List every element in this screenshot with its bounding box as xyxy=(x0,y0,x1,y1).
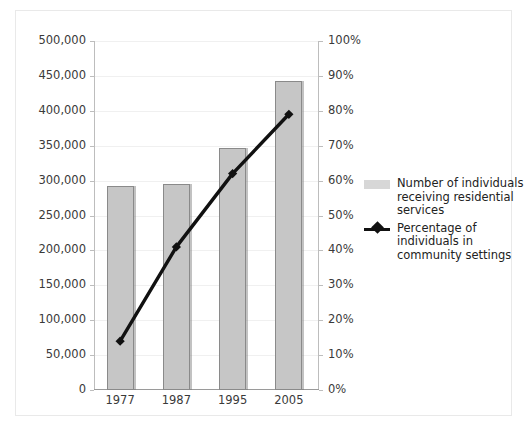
left-axis-tick-label: 200,000 xyxy=(38,245,86,257)
right-axis-tickmark xyxy=(319,76,323,77)
chart-legend: Number of individuals receiving resident… xyxy=(364,177,524,266)
left-axis-tickmark xyxy=(90,355,94,356)
right-axis-tickmark xyxy=(319,216,323,217)
left-axis-tick-label: 50,000 xyxy=(46,349,86,361)
bar xyxy=(163,184,190,390)
right-axis-tick-label: 90% xyxy=(328,70,354,82)
x-axis-tick-label: 2005 xyxy=(274,395,303,407)
right-axis-tickmark xyxy=(319,111,323,112)
chart-figure: 050,000100,000150,000200,000250,000300,0… xyxy=(0,0,528,434)
right-axis-tick-label: 60% xyxy=(328,175,354,187)
left-axis-tickmark xyxy=(90,320,94,321)
x-axis-tick-label: 1987 xyxy=(162,395,191,407)
right-axis-tickmark xyxy=(319,285,323,286)
right-axis-tickmark xyxy=(319,146,323,147)
x-axis-tick-label: 1995 xyxy=(218,395,247,407)
legend-item-line: Percentage of individuals in community s… xyxy=(364,222,524,263)
right-axis-tick-label: 80% xyxy=(328,105,354,117)
left-axis-tickmark xyxy=(90,250,94,251)
right-axis-tick-label: 50% xyxy=(328,210,354,222)
left-axis-tickmark xyxy=(90,285,94,286)
legend-line-label: Percentage of individuals in community s… xyxy=(397,222,524,263)
left-axis-tickmark xyxy=(90,181,94,182)
legend-bar-label: Number of individuals receiving resident… xyxy=(397,177,524,218)
left-axis-tick-label: 250,000 xyxy=(38,210,86,222)
gridline xyxy=(95,76,318,77)
left-axis-tick-label: 450,000 xyxy=(38,70,86,82)
diamond-marker-icon xyxy=(371,221,384,234)
right-axis-tick-label: 0% xyxy=(328,384,346,396)
plot-area: 050,000100,000150,000200,000250,000300,0… xyxy=(94,41,319,390)
line-path xyxy=(120,114,289,341)
left-axis-tick-label: 300,000 xyxy=(38,175,86,187)
bar xyxy=(275,81,302,390)
right-axis-tickmark xyxy=(319,390,323,391)
right-axis-tick-label: 40% xyxy=(328,245,354,257)
right-axis-tickmark xyxy=(319,320,323,321)
bar xyxy=(219,148,246,390)
left-axis-tickmark xyxy=(90,216,94,217)
right-axis-tickmark xyxy=(319,41,323,42)
right-axis-tick-label: 100% xyxy=(328,35,361,47)
left-axis-tick-label: 500,000 xyxy=(38,35,86,47)
left-axis-tickmark xyxy=(90,146,94,147)
legend-bar-key xyxy=(364,177,390,211)
left-axis-tickmark xyxy=(90,76,94,77)
right-axis-tick-label: 20% xyxy=(328,314,354,326)
right-axis-tick-label: 70% xyxy=(328,140,354,152)
gridline xyxy=(95,41,318,42)
legend-line-key xyxy=(364,222,390,256)
right-axis-tickmark xyxy=(319,355,323,356)
chart-frame: 050,000100,000150,000200,000250,000300,0… xyxy=(15,10,512,416)
left-axis-tick-label: 0 xyxy=(79,384,86,396)
left-axis-tickmark xyxy=(90,390,94,391)
left-axis-tick-label: 400,000 xyxy=(38,105,86,117)
left-axis-tickmark xyxy=(90,111,94,112)
left-axis-tick-label: 100,000 xyxy=(38,314,86,326)
left-axis-tick-label: 350,000 xyxy=(38,140,86,152)
right-axis-tick-label: 10% xyxy=(328,349,354,361)
left-axis-tick-label: 150,000 xyxy=(38,280,86,292)
right-axis-tickmark xyxy=(319,181,323,182)
right-axis-tick-label: 30% xyxy=(328,280,354,292)
x-axis-tick-label: 1977 xyxy=(105,395,134,407)
left-axis-tickmark xyxy=(90,41,94,42)
bar xyxy=(107,186,134,390)
legend-item-bar: Number of individuals receiving resident… xyxy=(364,177,524,218)
right-axis-tickmark xyxy=(319,250,323,251)
bar-swatch-icon xyxy=(364,180,390,189)
